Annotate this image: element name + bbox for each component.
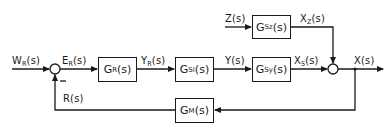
block-gm: GM(s) — [175, 98, 214, 123]
signal-er-arg: (s) — [73, 54, 86, 67]
block-gr-base: G — [104, 63, 113, 76]
signal-label-er: ER(s) — [62, 55, 87, 67]
signal-label-wr: WR(s) — [12, 55, 40, 67]
signal-label-y: Y(s) — [225, 55, 245, 67]
signal-label-r: R(s) — [63, 93, 84, 105]
block-gm-base: G — [180, 104, 189, 117]
block-gsz: GSz(s) — [252, 15, 291, 39]
signal-xs-base: X — [294, 54, 301, 67]
signal-y-arg: (s) — [231, 54, 244, 67]
signal-x-base: X — [354, 54, 361, 67]
signal-yr-arg: (s) — [152, 54, 165, 67]
signal-z-arg: (s) — [232, 12, 245, 25]
block-gsz-base: G — [256, 21, 265, 34]
signal-label-xz: XZ(s) — [300, 13, 325, 25]
block-gm-arg: (s) — [195, 104, 209, 117]
signal-x-arg: (s) — [361, 54, 374, 67]
signal-label-xs: XS(s) — [294, 55, 319, 67]
block-gsi-arg: (s) — [195, 63, 209, 76]
block-gsi: GSI(s) — [175, 57, 214, 82]
signal-wr-arg: (s) — [27, 54, 40, 67]
signal-label-yr: YR(s) — [141, 55, 165, 67]
branch-point — [353, 67, 356, 70]
signal-r-arg: (s) — [70, 92, 83, 105]
block-gsy-base: G — [256, 63, 265, 76]
block-gr-arg: (s) — [117, 63, 131, 76]
summing-junction-1 — [50, 64, 60, 74]
block-gsy: GSy(s) — [252, 57, 291, 82]
signal-xz-arg: (s) — [312, 12, 325, 25]
summing-junction-2 — [328, 64, 338, 74]
block-gsi-base: G — [180, 63, 189, 76]
signal-z-base: Z — [225, 12, 232, 25]
block-gsz-arg: (s) — [273, 21, 287, 34]
signal-label-x: X(s) — [354, 55, 374, 67]
signal-wr-base: W — [12, 54, 22, 67]
signal-label-z: Z(s) — [225, 13, 245, 25]
block-gsy-arg: (s) — [273, 63, 287, 76]
block-gr: GR(s) — [98, 57, 137, 82]
signal-xz-base: X — [300, 12, 307, 25]
signal-xs-arg: (s) — [305, 54, 318, 67]
